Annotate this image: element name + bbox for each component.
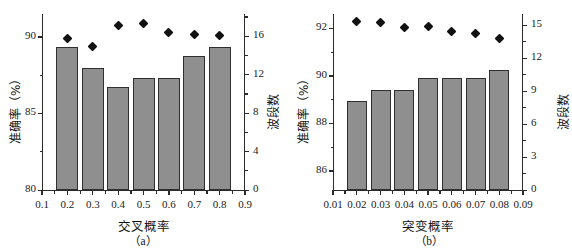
y-tick-right <box>522 91 527 92</box>
x-minor-tick <box>181 190 182 194</box>
data-point-marker <box>139 19 149 29</box>
y-tick-left <box>329 123 334 124</box>
y-tick-right <box>522 157 527 158</box>
y-tick-left <box>38 113 43 114</box>
x-tick <box>143 190 144 195</box>
x-tick <box>499 190 500 195</box>
y-axis-label-left-b: 准确率（%） <box>294 73 311 144</box>
y-minor-tick-right <box>244 170 248 171</box>
x-tick <box>356 190 357 195</box>
x-tick <box>244 190 245 195</box>
x-minor-tick <box>232 190 233 194</box>
data-point-marker <box>62 33 72 43</box>
y-tick-label-left: 86 <box>299 163 327 175</box>
x-minor-tick <box>206 190 207 194</box>
y-minor-tick-left <box>40 151 44 152</box>
y-tick-left <box>329 75 334 76</box>
y-tick-label-right: 12 <box>531 50 557 62</box>
y-minor-tick-left <box>40 75 44 76</box>
y-axis-label-left-a: 准确率（%） <box>6 73 23 144</box>
bar <box>489 70 509 190</box>
panel-a: 90858016128400.10.20.30.40.50.60.70.80.9… <box>0 0 286 250</box>
x-minor-tick <box>368 190 369 194</box>
y-minor-tick-right <box>244 55 248 56</box>
data-point-marker <box>189 29 199 39</box>
y-tick-right <box>244 113 249 114</box>
x-minor-tick <box>80 190 81 194</box>
y-minor-tick-right <box>522 173 526 174</box>
bar <box>466 78 486 190</box>
x-tick <box>92 190 93 195</box>
x-minor-tick <box>416 190 417 194</box>
x-minor-tick <box>463 190 464 194</box>
y-tick-label-left: 92 <box>299 20 327 32</box>
bar <box>82 68 104 190</box>
x-minor-tick <box>130 190 131 194</box>
data-point-marker <box>423 21 433 31</box>
y-tick-right <box>244 74 249 75</box>
bar <box>442 78 462 190</box>
y-tick-right <box>244 36 249 37</box>
x-minor-tick <box>439 190 440 194</box>
x-tick <box>404 190 405 195</box>
data-point-marker <box>494 33 504 43</box>
y-tick-right <box>522 25 527 26</box>
y-axis-left-spine <box>333 14 334 190</box>
y-tick-left <box>329 28 334 29</box>
x-tick <box>451 190 452 195</box>
y-minor-tick-right <box>244 93 248 94</box>
bar <box>107 87 129 190</box>
y-tick-label-right: 3 <box>531 149 557 161</box>
x-tick <box>219 190 220 195</box>
figure-root: 90858016128400.10.20.30.40.50.60.70.80.9… <box>0 0 572 250</box>
x-tick <box>194 190 195 195</box>
bar <box>133 78 155 190</box>
x-tick <box>427 190 428 195</box>
bar <box>418 78 438 190</box>
y-tick-label-right: 16 <box>253 28 279 40</box>
y-minor-tick-right <box>522 107 526 108</box>
plot-area-b: 92908886151296300.010.020.030.040.050.06… <box>333 14 523 190</box>
x-minor-tick <box>344 190 345 194</box>
x-tick <box>332 190 333 195</box>
x-tick-label: 0.9 <box>223 198 267 210</box>
y-tick-right <box>522 58 527 59</box>
y-tick-label-left: 80 <box>8 182 36 194</box>
panel-caption-a: （a） <box>0 232 286 248</box>
y-axis-right-spine <box>244 14 245 190</box>
y-axis-label-right-b: 波段数 <box>554 94 571 130</box>
y-tick-label-right: 15 <box>531 17 557 29</box>
data-point-marker <box>88 42 98 52</box>
x-minor-tick <box>487 190 488 194</box>
bar <box>158 78 180 190</box>
y-minor-tick-left <box>331 147 335 148</box>
y-axis-left-spine <box>42 14 43 190</box>
x-tick <box>475 190 476 195</box>
x-tick <box>41 190 42 195</box>
x-tick <box>168 190 169 195</box>
bar <box>209 47 231 190</box>
y-tick-label-right: 0 <box>253 182 279 194</box>
y-tick-right <box>244 151 249 152</box>
y-tick-right <box>522 124 527 125</box>
x-minor-tick <box>54 190 55 194</box>
y-tick-left <box>329 170 334 171</box>
panel-caption-b: （b） <box>286 232 572 248</box>
y-minor-tick-right <box>522 41 526 42</box>
x-minor-tick <box>105 190 106 194</box>
y-minor-tick-right <box>244 16 248 17</box>
x-tick <box>67 190 68 195</box>
y-minor-tick-right <box>522 140 526 141</box>
x-tick <box>380 190 381 195</box>
data-point-marker <box>471 29 481 39</box>
bar <box>347 101 367 190</box>
y-minor-tick-right <box>244 132 248 133</box>
data-point-marker <box>447 27 457 37</box>
panel-b: 92908886151296300.010.020.030.040.050.06… <box>286 0 572 250</box>
y-minor-tick-right <box>522 74 526 75</box>
data-point-marker <box>399 22 409 32</box>
y-minor-tick-left <box>331 52 335 53</box>
data-point-marker <box>376 18 386 28</box>
data-point-marker <box>113 21 123 31</box>
bar <box>183 56 205 190</box>
